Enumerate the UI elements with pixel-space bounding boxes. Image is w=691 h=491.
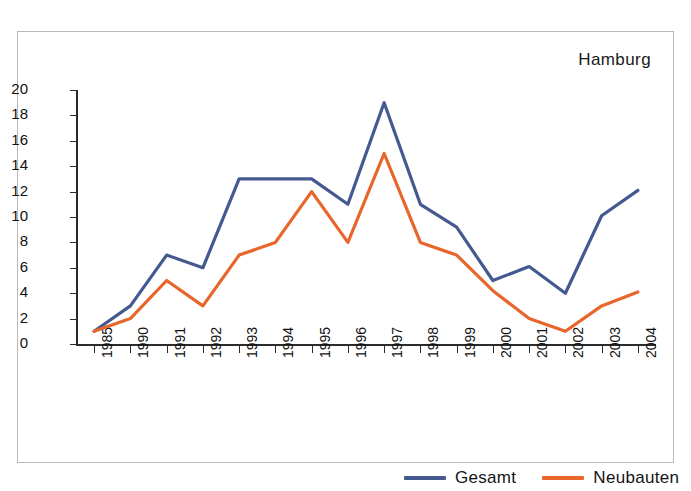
y-tick-label: 18 — [0, 106, 28, 121]
series-line-gesamt — [94, 103, 638, 332]
legend-item-neubauten[interactable]: Neubauten — [542, 468, 679, 488]
legend-swatch-icon — [404, 476, 446, 480]
y-tick-label: 0 — [0, 335, 28, 350]
series-layer — [76, 90, 656, 346]
x-tick-mark — [275, 346, 276, 353]
x-tick-mark — [94, 346, 95, 353]
x-tick-mark — [493, 346, 494, 353]
x-tick-mark — [203, 346, 204, 353]
legend-swatch-icon — [542, 476, 584, 480]
y-tick-label: 2 — [0, 310, 28, 325]
chart-figure: Hamburg 02468101214161820 19851990199119… — [0, 0, 691, 491]
y-tick-label: 14 — [0, 157, 28, 172]
legend-item-gesamt[interactable]: Gesamt — [404, 468, 516, 488]
y-tick-label: 4 — [0, 284, 28, 299]
y-tick-label: 6 — [0, 259, 28, 274]
y-tick-label: 8 — [0, 233, 28, 248]
x-tick-mark — [420, 346, 421, 353]
legend-label: Neubauten — [593, 468, 679, 488]
y-tick-label: 20 — [0, 81, 28, 96]
y-tick-label: 12 — [0, 183, 28, 198]
chart-frame-border: Hamburg 02468101214161820 19851990199119… — [17, 31, 674, 463]
x-tick-mark — [167, 346, 168, 353]
x-tick-mark — [384, 346, 385, 353]
chart-legend: GesamtNeubauten — [404, 468, 679, 488]
x-tick-mark — [130, 346, 131, 353]
page-title: Hamburg — [578, 50, 651, 70]
x-tick-mark — [239, 346, 240, 353]
x-tick-mark — [638, 346, 639, 353]
x-tick-mark — [529, 346, 530, 353]
x-tick-mark — [348, 346, 349, 353]
x-tick-mark — [602, 346, 603, 353]
y-tick-label: 16 — [0, 132, 28, 147]
y-tick-label: 10 — [0, 208, 28, 223]
x-tick-mark — [457, 346, 458, 353]
legend-label: Gesamt — [455, 468, 516, 488]
x-tick-mark — [565, 346, 566, 353]
x-tick-mark — [312, 346, 313, 353]
series-line-neubauten — [94, 154, 638, 332]
